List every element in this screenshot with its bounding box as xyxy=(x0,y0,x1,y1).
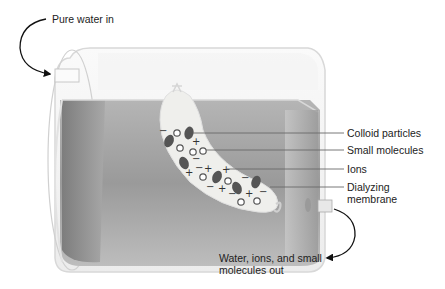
outlet-label-line2: molecules out xyxy=(219,264,284,276)
negative-ion: − xyxy=(206,181,214,192)
negative-ion: − xyxy=(228,188,236,199)
inlet-pipe xyxy=(55,69,79,82)
negative-ion: − xyxy=(159,125,167,136)
positive-ion: + xyxy=(192,136,200,147)
colloid-particles-label: Colloid particles xyxy=(347,127,421,139)
positive-ion: + xyxy=(245,188,253,199)
positive-ion: + xyxy=(185,167,193,178)
membrane-label-line1: Dialyzing xyxy=(347,181,390,193)
outlet-pipe xyxy=(305,198,332,212)
positive-ion: + xyxy=(222,164,230,175)
inlet-label: Pure water in xyxy=(52,13,114,25)
positive-ion: + xyxy=(204,163,212,174)
outlet-label-line1: Water, ions, and small xyxy=(219,252,322,264)
ions-label: Ions xyxy=(347,163,367,175)
positive-ion: + xyxy=(218,183,226,194)
negative-ion: − xyxy=(195,162,203,173)
outlet-arrow xyxy=(327,209,355,258)
negative-ion: − xyxy=(241,172,249,183)
inlet-arrow xyxy=(20,19,50,74)
small-molecules-label: Small molecules xyxy=(347,144,423,156)
negative-ion: − xyxy=(259,186,267,197)
membrane-label-line2: membrane xyxy=(347,193,397,205)
